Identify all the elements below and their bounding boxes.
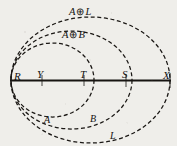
label-point-t: T: [80, 69, 86, 80]
label-point-s: S: [122, 69, 128, 80]
conjunction-outer-right: L: [85, 6, 91, 17]
label-conjunction-outer: A⊕L: [69, 7, 91, 18]
conjunction-inner-right: B: [78, 29, 84, 40]
label-point-y: Y: [37, 69, 43, 80]
label-curve-a: A: [44, 115, 50, 125]
label-point-x: X: [163, 70, 170, 81]
earth-symbol-icon: ⊕: [68, 29, 78, 40]
earth-symbol-icon: ⊕: [75, 6, 85, 17]
label-point-r: R: [14, 71, 21, 82]
label-conjunction-inner: A⊕B: [62, 30, 85, 41]
label-curve-l: L: [110, 131, 116, 141]
orbit-diagram-canvas: [0, 0, 177, 146]
label-curve-b: B: [90, 114, 96, 124]
